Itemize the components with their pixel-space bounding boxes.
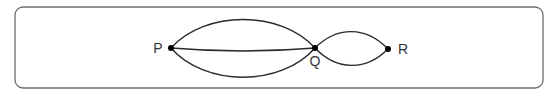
node-label-r: R xyxy=(398,41,408,57)
graph-diagram: PQR xyxy=(0,0,557,95)
node-q xyxy=(312,45,318,51)
diagram-frame xyxy=(15,7,543,88)
node-r xyxy=(385,46,391,52)
node-label-q: Q xyxy=(310,53,321,69)
node-p xyxy=(168,45,174,51)
node-label-p: P xyxy=(153,40,162,56)
